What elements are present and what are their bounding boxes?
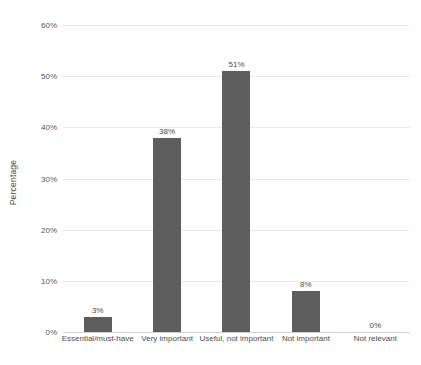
bar[interactable] bbox=[153, 138, 181, 332]
gridline bbox=[63, 332, 410, 333]
x-axis-tick-label: Not important bbox=[282, 334, 330, 343]
bar-value-label: 38% bbox=[159, 127, 175, 136]
bar[interactable] bbox=[292, 291, 320, 332]
bar-value-label: 3% bbox=[92, 306, 104, 315]
y-axis-tick-label: 40% bbox=[41, 123, 57, 132]
y-axis-tick-label: 50% bbox=[41, 72, 57, 81]
y-axis-tick-label: 60% bbox=[41, 21, 57, 30]
y-axis-tick-label: 10% bbox=[41, 276, 57, 285]
bar-chart: Percentage 0%10%20%30%40%50%60% 3%38%51%… bbox=[0, 0, 421, 365]
x-axis-tick-label: Very important bbox=[141, 334, 193, 343]
bar-slot: 0% bbox=[341, 25, 410, 332]
bar-value-label: 51% bbox=[228, 60, 244, 69]
y-axis-tick-labels: 0%10%20%30%40%50%60% bbox=[0, 25, 63, 332]
y-axis-tick-label: 30% bbox=[41, 174, 57, 183]
bar-slot: 38% bbox=[132, 25, 201, 332]
y-axis-tick-label: 0% bbox=[45, 328, 57, 337]
x-axis-tick-label: Useful, not important bbox=[200, 334, 274, 343]
bar-value-label: 8% bbox=[300, 280, 312, 289]
x-axis-tick-labels: Essential/must-haveVery importantUseful,… bbox=[63, 334, 410, 350]
bar-slot: 8% bbox=[271, 25, 340, 332]
bar[interactable] bbox=[84, 317, 112, 332]
x-axis-tick-label: Not relevant bbox=[354, 334, 397, 343]
bar-slot: 3% bbox=[63, 25, 132, 332]
bar[interactable] bbox=[222, 71, 250, 332]
x-axis-tick-label: Essential/must-have bbox=[62, 334, 134, 343]
bar-slot: 51% bbox=[202, 25, 271, 332]
bar-value-label: 0% bbox=[370, 321, 382, 330]
y-axis-tick-label: 20% bbox=[41, 225, 57, 234]
plot-area: 3%38%51%8%0% bbox=[63, 25, 410, 332]
